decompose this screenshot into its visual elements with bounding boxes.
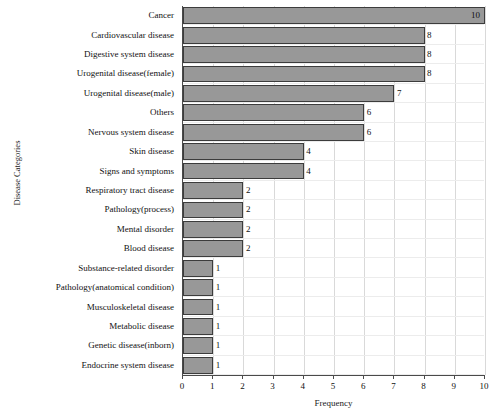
- category-label: Signs and symptoms: [0, 166, 174, 176]
- category-label: Musculoskeletal disease: [0, 302, 174, 312]
- gridline-horizontal: [183, 219, 484, 220]
- x-tick-label: 4: [291, 381, 315, 391]
- category-label: Pathology(process): [0, 204, 174, 214]
- bar: [183, 299, 213, 316]
- gridline-horizontal: [183, 63, 484, 64]
- x-tick: [424, 375, 425, 379]
- x-tick-label: 7: [381, 381, 405, 391]
- gridline-horizontal: [183, 257, 484, 258]
- bar-value-label: 2: [246, 243, 251, 253]
- gridline-horizontal: [183, 160, 484, 161]
- bar: [183, 279, 213, 296]
- gridline-horizontal: [183, 335, 484, 336]
- x-tick-label: 1: [200, 381, 224, 391]
- bar-value-label: 1: [216, 321, 221, 331]
- gridline-horizontal: [183, 180, 484, 181]
- category-label: Pathology(anatomical condition): [0, 282, 174, 292]
- category-axis-labels: CancerCardiovascular diseaseDigestive sy…: [0, 6, 178, 375]
- bar-value-label: 4: [306, 166, 311, 176]
- x-tick: [212, 375, 213, 379]
- bar-value-label: 2: [246, 224, 251, 234]
- bar: [183, 337, 213, 354]
- bar-value-label: 7: [397, 88, 402, 98]
- bar-value-label: 1: [216, 263, 221, 273]
- gridline-horizontal: [183, 141, 484, 142]
- bar-value-label: 6: [367, 127, 372, 137]
- bar-value-label: 10: [471, 10, 480, 20]
- bar: [183, 240, 243, 257]
- plot-area: 10888766442222111111: [182, 6, 484, 375]
- bar-value-label: 1: [216, 340, 221, 350]
- bar-value-label: 8: [427, 49, 432, 59]
- gridline-vertical: [425, 6, 426, 375]
- category-label: Cardiovascular disease: [0, 30, 174, 40]
- gridline-horizontal: [183, 44, 484, 45]
- gridline-horizontal: [183, 296, 484, 297]
- x-tick: [484, 375, 485, 379]
- bar: [183, 357, 213, 374]
- x-tick: [333, 375, 334, 379]
- x-tick: [303, 375, 304, 379]
- x-tick-label: 5: [321, 381, 345, 391]
- x-tick: [273, 375, 274, 379]
- bar: [183, 163, 304, 180]
- bar-value-label: 6: [367, 107, 372, 117]
- bar-chart: Disease Categories CancerCardiovascular …: [0, 0, 502, 418]
- bar-value-label: 2: [246, 185, 251, 195]
- category-label: Urogenital disease(female): [0, 68, 174, 78]
- bar-value-label: 2: [246, 204, 251, 214]
- category-label: Cancer: [0, 10, 174, 20]
- bar: [183, 202, 243, 219]
- bar-value-label: 1: [216, 302, 221, 312]
- x-tick-label: 9: [442, 381, 466, 391]
- category-label: Mental disorder: [0, 224, 174, 234]
- bar-value-label: 8: [427, 68, 432, 78]
- category-label: Blood disease: [0, 243, 174, 253]
- category-label: Genetic disease(inborn): [0, 340, 174, 350]
- category-label: Endocrine system disease: [0, 360, 174, 370]
- bar: [183, 27, 425, 44]
- x-tick-label: 8: [412, 381, 436, 391]
- category-label: Substance-related disorder: [0, 263, 174, 273]
- category-label: Digestive system disease: [0, 49, 174, 59]
- x-tick: [454, 375, 455, 379]
- x-tick-label: 0: [170, 381, 194, 391]
- bar-value-label: 1: [216, 282, 221, 292]
- bar-value-label: 8: [427, 30, 432, 40]
- bar: [183, 85, 394, 102]
- gridline-horizontal: [183, 102, 484, 103]
- category-label: Skin disease: [0, 146, 174, 156]
- x-tick: [393, 375, 394, 379]
- gridline-horizontal: [183, 277, 484, 278]
- x-tick: [363, 375, 364, 379]
- gridline-horizontal: [183, 122, 484, 123]
- gridline-horizontal: [183, 355, 484, 356]
- gridline-horizontal: [183, 83, 484, 84]
- bar-value-label: 1: [216, 360, 221, 370]
- gridline-horizontal: [183, 316, 484, 317]
- bar: [183, 143, 304, 160]
- x-tick: [242, 375, 243, 379]
- gridline-vertical: [455, 6, 456, 375]
- x-tick: [182, 375, 183, 379]
- x-tick-label: 3: [261, 381, 285, 391]
- gridline-vertical: [485, 6, 486, 375]
- x-tick-label: 2: [230, 381, 254, 391]
- bar: [183, 221, 243, 238]
- bar: [183, 318, 213, 335]
- bar: [183, 66, 425, 83]
- category-label: Nervous system disease: [0, 127, 174, 137]
- category-label: Urogenital disease(male): [0, 88, 174, 98]
- category-label: Metabolic disease: [0, 321, 174, 331]
- bar: [183, 46, 425, 63]
- gridline-horizontal: [183, 24, 484, 25]
- bar: [183, 260, 213, 277]
- bar-value-label: 4: [306, 146, 311, 156]
- bar: [183, 7, 485, 24]
- x-tick-label: 10: [472, 381, 496, 391]
- category-label: Respiratory tract disease: [0, 185, 174, 195]
- bar: [183, 182, 243, 199]
- x-tick-label: 6: [351, 381, 375, 391]
- gridline-horizontal: [183, 238, 484, 239]
- bar: [183, 104, 364, 121]
